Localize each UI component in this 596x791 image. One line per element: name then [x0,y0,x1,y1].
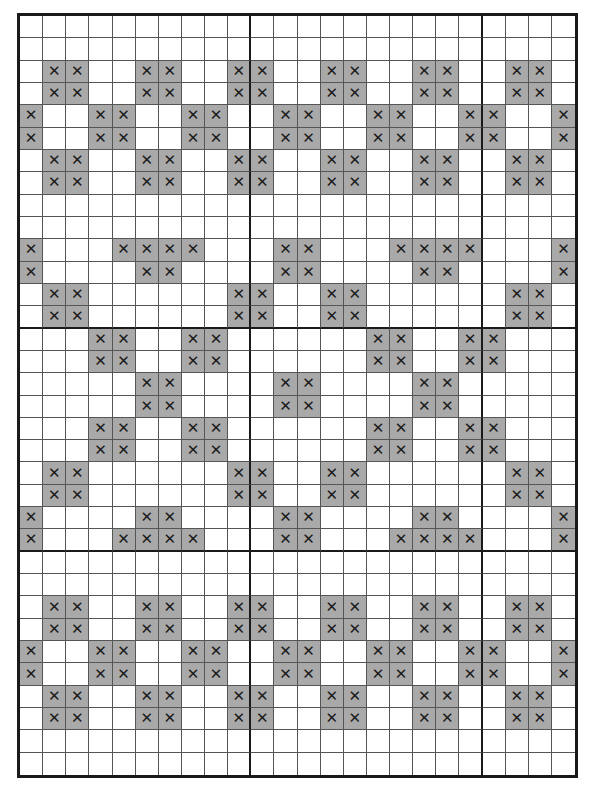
empty-cell [413,16,436,38]
empty-cell [228,239,251,261]
empty-cell [529,641,552,663]
stitch-cell: ✕ [321,596,344,618]
empty-cell [436,663,459,685]
empty-cell [66,730,89,752]
empty-cell [113,172,136,194]
stitch-cell: ✕ [506,61,529,83]
empty-cell [274,83,297,105]
stitch-cell: ✕ [459,641,482,663]
empty-cell [552,485,575,507]
empty-cell [552,61,575,83]
empty-cell [321,128,344,150]
empty-cell [205,730,228,752]
empty-cell [529,730,552,752]
empty-cell [20,373,43,395]
empty-cell [251,574,274,596]
empty-cell [483,172,506,194]
stitch-cell: ✕ [205,663,228,685]
empty-cell [205,619,228,641]
empty-cell [413,552,436,574]
stitch-cell: ✕ [529,708,552,730]
empty-cell [136,351,159,373]
empty-cell [136,753,159,775]
empty-cell [483,306,506,328]
stitch-cell: ✕ [20,239,43,261]
empty-cell [483,552,506,574]
empty-cell [136,663,159,685]
stitch-cell: ✕ [298,128,321,150]
empty-cell [367,619,390,641]
stitch-cell: ✕ [459,128,482,150]
empty-cell [344,730,367,752]
empty-cell [506,396,529,418]
empty-cell [182,686,205,708]
empty-cell [89,262,112,284]
empty-cell [367,373,390,395]
stitch-cell: ✕ [43,462,66,484]
stitch-cell: ✕ [552,529,575,551]
empty-cell [321,373,344,395]
stitch-cell: ✕ [136,396,159,418]
stitch-cell: ✕ [159,686,182,708]
empty-cell [321,329,344,351]
empty-cell [321,730,344,752]
empty-cell [298,306,321,328]
stitch-cell: ✕ [367,418,390,440]
empty-cell [390,217,413,239]
empty-cell [552,619,575,641]
stitch-cell: ✕ [228,306,251,328]
empty-cell [321,38,344,60]
stitch-cell: ✕ [20,262,43,284]
empty-cell [251,552,274,574]
empty-cell [89,462,112,484]
empty-cell [506,574,529,596]
empty-cell [413,418,436,440]
empty-cell [159,663,182,685]
empty-cell [66,753,89,775]
empty-cell [367,462,390,484]
stitch-cell: ✕ [274,641,297,663]
empty-cell [436,128,459,150]
empty-cell [251,753,274,775]
stitch-cell: ✕ [529,61,552,83]
empty-cell [459,596,482,618]
stitch-cell: ✕ [136,239,159,261]
empty-cell [182,485,205,507]
empty-cell [20,150,43,172]
empty-cell [182,373,205,395]
stitch-cell: ✕ [182,351,205,373]
stitch-cell: ✕ [321,619,344,641]
empty-cell [182,753,205,775]
empty-cell [228,396,251,418]
empty-cell [367,195,390,217]
stitch-cell: ✕ [344,619,367,641]
empty-cell [43,753,66,775]
stitch-cell: ✕ [89,329,112,351]
stitch-cell: ✕ [66,619,89,641]
empty-cell [552,150,575,172]
stitch-cell: ✕ [483,105,506,127]
stitch-cell: ✕ [459,440,482,462]
empty-cell [529,217,552,239]
empty-cell [66,217,89,239]
empty-cell [413,329,436,351]
empty-cell [483,83,506,105]
stitch-cell: ✕ [136,262,159,284]
empty-cell [66,396,89,418]
empty-cell [136,16,159,38]
stitch-cell: ✕ [228,619,251,641]
stitch-cell: ✕ [529,596,552,618]
stitch-cell: ✕ [483,440,506,462]
empty-cell [43,641,66,663]
empty-cell [483,686,506,708]
empty-cell [298,172,321,194]
stitch-cell: ✕ [390,128,413,150]
empty-cell [205,574,228,596]
empty-cell [20,284,43,306]
empty-cell [182,83,205,105]
stitch-cell: ✕ [228,61,251,83]
empty-cell [552,418,575,440]
empty-cell [43,440,66,462]
empty-cell [298,485,321,507]
empty-cell [159,217,182,239]
